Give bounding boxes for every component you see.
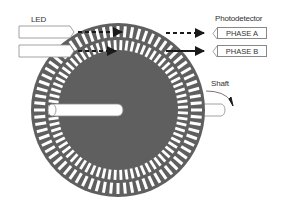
rotation-arrow-icon (206, 91, 231, 101)
led-emitter-a (19, 26, 74, 38)
encoder-slot (116, 183, 119, 194)
encoder-slot (114, 170, 117, 180)
shaft-label: Shaft (211, 79, 229, 88)
encoder-slot (34, 108, 45, 111)
photodetector-label: Photodetector (215, 14, 262, 23)
rotation-arrowhead-icon (229, 97, 233, 106)
encoder-slot (119, 40, 122, 50)
led-label: LED (31, 15, 46, 24)
phase-a-detector: PHASE A (217, 27, 267, 39)
encoder-slot (178, 106, 188, 109)
led-emitter-b (19, 45, 74, 57)
shaft-front (48, 104, 123, 116)
encoder-slot (119, 170, 122, 180)
phase-b-detector: PHASE B (217, 45, 267, 57)
encoder-slot (191, 108, 202, 111)
encoder-slot (114, 40, 117, 50)
encoder-slot (178, 111, 188, 114)
